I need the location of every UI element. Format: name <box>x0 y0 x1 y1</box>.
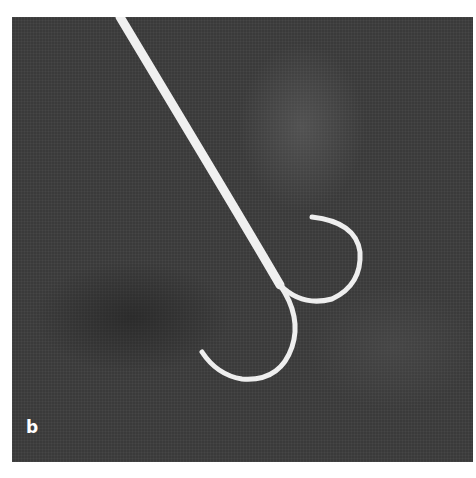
guidewire-shape <box>12 17 473 462</box>
xray-image-panel: b <box>12 17 473 462</box>
panel-label: b <box>26 417 38 437</box>
